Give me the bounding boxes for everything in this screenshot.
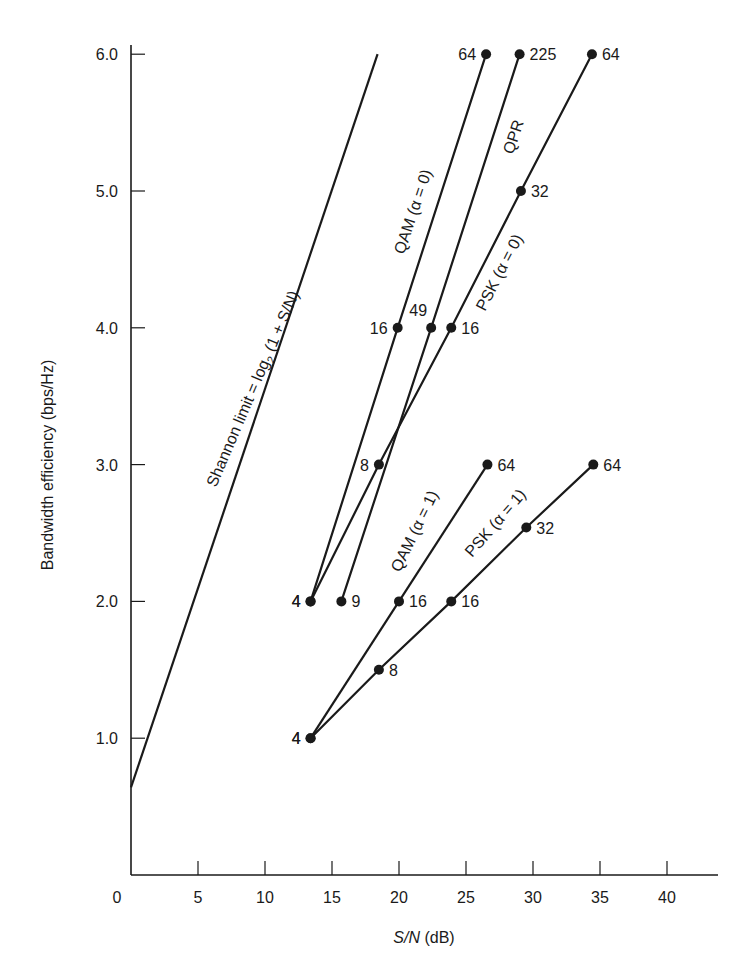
point-label: 225 <box>530 46 557 63</box>
qam0-label: QAM (α = 0) <box>391 167 435 256</box>
point-label: 16 <box>461 593 479 610</box>
x-tick-label: 5 <box>194 889 203 906</box>
data-point-marker <box>306 596 316 606</box>
data-point-marker <box>394 596 404 606</box>
data-point-marker <box>446 323 456 333</box>
point-labels: 41664949225481632644166448163264 <box>292 46 622 747</box>
x-tick-label: 35 <box>591 889 609 906</box>
x-tick-label: 20 <box>390 889 408 906</box>
data-point-marker <box>393 323 403 333</box>
psk1-label: PSK (α = 1) <box>461 486 529 560</box>
qpr-label: QPR <box>500 118 527 156</box>
data-point-marker <box>587 49 597 59</box>
data-point-marker <box>374 665 384 675</box>
point-label: 8 <box>360 457 369 474</box>
data-markers <box>306 49 599 743</box>
chart: 05101520253035401.02.03.04.05.06.0 41664… <box>0 0 740 970</box>
point-label: 9 <box>351 593 360 610</box>
data-point-marker <box>426 323 436 333</box>
point-label: 16 <box>370 320 388 337</box>
y-tick-label: 3.0 <box>96 457 118 474</box>
point-label: 64 <box>458 46 476 63</box>
x-tick-label: 15 <box>323 889 341 906</box>
y-tick-label: 2.0 <box>96 593 118 610</box>
point-label: 64 <box>497 457 515 474</box>
axes: 05101520253035401.02.03.04.05.06.0 <box>96 45 718 906</box>
point-label: 49 <box>409 302 427 319</box>
x-tick-label: 0 <box>113 889 122 906</box>
data-point-marker <box>516 186 526 196</box>
point-label: 16 <box>409 593 427 610</box>
y-axis-label: Bandwidth efficiency (bps/Hz) <box>39 360 56 570</box>
y-tick-label: 5.0 <box>96 183 118 200</box>
point-label: 4 <box>292 593 301 610</box>
data-point-marker <box>306 733 316 743</box>
point-label: 32 <box>531 183 549 200</box>
shannon-label: Shannon limit = log2 (1 + S/N) <box>203 288 305 490</box>
point-label: 64 <box>603 457 621 474</box>
point-label: 16 <box>461 320 479 337</box>
point-label: 8 <box>389 662 398 679</box>
x-tick-label: 10 <box>256 889 274 906</box>
x-tick-label: 30 <box>524 889 542 906</box>
x-axis-label: S/N (dB) <box>393 929 454 946</box>
series-lines <box>131 54 593 787</box>
point-label: 4 <box>292 730 301 747</box>
y-tick-label: 1.0 <box>96 730 118 747</box>
x-tick-label: 25 <box>457 889 475 906</box>
point-label: 64 <box>602 46 620 63</box>
data-point-marker <box>588 460 598 470</box>
y-tick-label: 6.0 <box>96 46 118 63</box>
data-point-marker <box>446 596 456 606</box>
data-point-marker <box>374 460 384 470</box>
data-point-marker <box>336 596 346 606</box>
y-tick-label: 4.0 <box>96 320 118 337</box>
qam1-label: QAM (α = 1) <box>387 488 441 574</box>
x-tick-label: 40 <box>658 889 676 906</box>
data-point-marker <box>481 49 491 59</box>
data-point-marker <box>482 460 492 470</box>
data-point-marker <box>521 523 531 533</box>
data-point-marker <box>515 49 525 59</box>
point-label: 32 <box>536 520 554 537</box>
series-line <box>131 54 378 787</box>
